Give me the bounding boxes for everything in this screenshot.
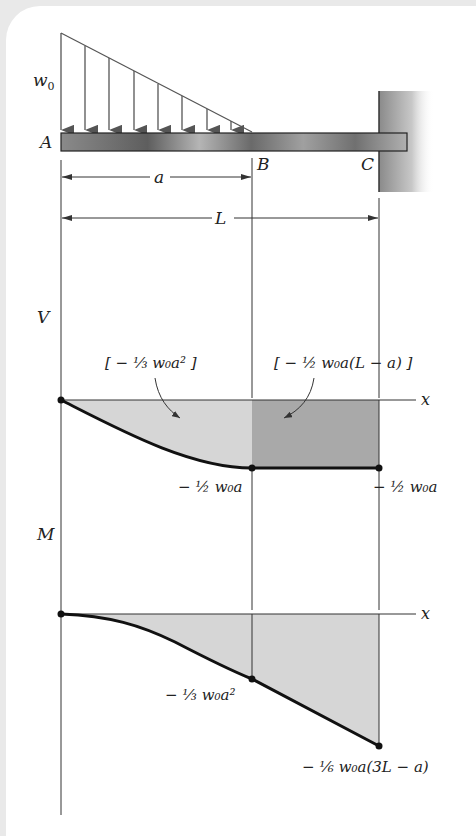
point-label-a: A (38, 132, 52, 152)
shear-area1-label: [ − ⅓ w₀a² ] (105, 354, 197, 372)
moment-x-label: x (421, 604, 430, 623)
dimension-a-label: a (154, 167, 164, 187)
moment-diagram (58, 611, 417, 750)
moment-value-b: − ⅓ w₀a² (165, 686, 235, 704)
moment-value-c: − ⅙ w₀a(3L − a) (302, 758, 429, 776)
load-label: w0 (33, 70, 55, 93)
shear-value-b: − ½ w₀a (178, 478, 242, 496)
beam (61, 133, 407, 151)
point-label-c: C (361, 154, 374, 174)
shear-value-c: − ½ w₀a (373, 478, 437, 496)
moment-axis-label: M (36, 524, 55, 544)
shear-area2-label: [ − ½ w₀a(L − a) ] (274, 354, 413, 372)
point-label-b: B (256, 154, 270, 174)
dimension-l-label: L (214, 208, 226, 228)
distributed-load (61, 33, 252, 132)
shear-x-label: x (421, 390, 430, 409)
shear-diagram (58, 378, 417, 472)
shear-axis-label: V (37, 307, 51, 327)
